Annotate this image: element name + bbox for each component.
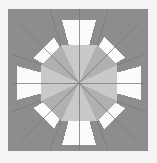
quilt-image-viewer: Eight-Pointed Star Quilt Block Geometric… <box>0 0 157 163</box>
patch-layer <box>8 9 148 151</box>
quilt-block-figure: Geometric eight-pointed star quilt block… <box>0 0 157 163</box>
